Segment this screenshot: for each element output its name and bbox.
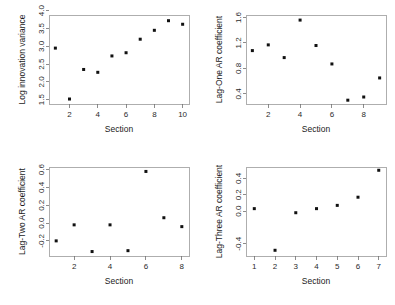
- x-tick-label: 7: [377, 262, 382, 271]
- plot-area-border: [246, 167, 386, 256]
- plot-area-border: [246, 15, 386, 104]
- y-tick-label: 0.4: [37, 181, 46, 193]
- data-point: [54, 47, 57, 50]
- data-point: [82, 68, 85, 71]
- data-point: [167, 19, 170, 22]
- x-tick-label: 8: [362, 110, 367, 119]
- data-point: [55, 239, 58, 242]
- y-axis-title: Lag-Three AR coefficient: [214, 164, 224, 258]
- panel-plot-1: 24680.40.81.21.6SectionLag-One AR coeffi…: [197, 0, 394, 152]
- panel-lag-three-ar-coefficient: 1234567-0.40.00.20.4SectionLag-Three AR …: [197, 152, 394, 304]
- x-tick-label: 2: [266, 110, 271, 119]
- y-tick-label: 4.0: [37, 5, 46, 17]
- x-tick-label: 5: [335, 262, 340, 271]
- data-point: [180, 225, 183, 228]
- x-axis-title: Section: [302, 124, 331, 134]
- data-point: [144, 170, 147, 173]
- y-tick-label: -0.2: [37, 233, 46, 247]
- y-tick-label: 0.4: [234, 88, 243, 100]
- data-point: [274, 249, 277, 252]
- y-tick-label: 0.8: [234, 62, 243, 74]
- x-tick-label: 8: [152, 110, 157, 119]
- x-tick-label: 4: [298, 110, 303, 119]
- data-point: [181, 23, 184, 26]
- data-point: [68, 98, 71, 101]
- y-tick-label: 1.2: [234, 37, 243, 49]
- data-point: [294, 211, 297, 214]
- panel-log-innovation-variance: 2468101.52.02.53.03.54.0SectionLog innov…: [0, 0, 197, 152]
- data-point: [378, 76, 381, 79]
- x-axis-title: Section: [105, 124, 134, 134]
- x-tick-label: 4: [96, 110, 101, 119]
- x-tick-label: 6: [330, 110, 335, 119]
- data-point: [315, 207, 318, 210]
- data-point: [73, 223, 76, 226]
- data-point: [377, 169, 380, 172]
- data-point: [346, 99, 349, 102]
- data-point: [267, 43, 270, 46]
- y-tick-label: 2.5: [37, 58, 46, 70]
- x-tick-label: 3: [294, 262, 299, 271]
- data-point: [139, 38, 142, 41]
- x-tick-label: 8: [180, 262, 185, 271]
- data-point: [362, 96, 365, 99]
- y-tick-label: -0.4: [234, 236, 243, 250]
- x-tick-label: 2: [273, 262, 278, 271]
- panel-lag-two-ar-coefficient: 2468-0.20.00.20.40.6SectionLag-Two AR co…: [0, 152, 197, 304]
- x-axis-title: Section: [302, 276, 331, 286]
- y-tick-label: 0.2: [234, 189, 243, 201]
- y-axis-title: Log innovation variance: [17, 14, 27, 104]
- data-point: [125, 51, 128, 54]
- x-tick-label: 2: [67, 110, 72, 119]
- data-point: [357, 196, 360, 199]
- x-tick-label: 2: [72, 262, 77, 271]
- data-point: [96, 71, 99, 74]
- data-point: [251, 49, 254, 52]
- data-point: [91, 250, 94, 253]
- y-tick-label: 3.0: [37, 40, 46, 52]
- x-tick-label: 4: [108, 262, 113, 271]
- data-point: [162, 216, 165, 219]
- data-point: [330, 62, 333, 65]
- y-tick-label: 0.0: [234, 205, 243, 217]
- plot-area-border: [49, 15, 189, 104]
- data-point: [110, 54, 113, 57]
- x-tick-label: 6: [144, 262, 149, 271]
- data-point: [336, 204, 339, 207]
- panel-plot-0: 2468101.52.02.53.03.54.0SectionLog innov…: [0, 0, 197, 152]
- x-tick-label: 10: [178, 110, 187, 119]
- x-tick-label: 4: [314, 262, 319, 271]
- y-tick-label: 0.2: [37, 199, 46, 211]
- data-point: [253, 207, 256, 210]
- panel-plot-3: 1234567-0.40.00.20.4SectionLag-Three AR …: [197, 152, 394, 304]
- data-point: [299, 19, 302, 22]
- plot-area-border: [49, 167, 189, 256]
- panel-lag-one-ar-coefficient: 24680.40.81.21.6SectionLag-One AR coeffi…: [197, 0, 394, 152]
- x-tick-label: 1: [252, 262, 257, 271]
- x-tick-label: 6: [356, 262, 361, 271]
- y-axis-title: Lag-One AR coefficient: [214, 15, 224, 103]
- y-tick-label: 0.4: [234, 172, 243, 184]
- y-tick-label: 1.6: [234, 11, 243, 23]
- x-axis-title: Section: [105, 276, 134, 286]
- data-point: [109, 223, 112, 226]
- data-point: [126, 249, 129, 252]
- data-point: [315, 44, 318, 47]
- y-tick-label: 1.5: [37, 94, 46, 106]
- y-axis-title: Lag-Two AR coefficient: [17, 167, 27, 254]
- y-tick-label: 2.0: [37, 76, 46, 88]
- x-tick-label: 6: [124, 110, 129, 119]
- panel-plot-2: 2468-0.20.00.20.40.6SectionLag-Two AR co…: [0, 152, 197, 304]
- y-tick-label: 0.6: [37, 164, 46, 176]
- scatter-panel-figure: 2468101.52.02.53.03.54.0SectionLog innov…: [0, 0, 395, 305]
- data-point: [283, 56, 286, 59]
- y-tick-label: 3.5: [37, 22, 46, 34]
- y-tick-label: 0.0: [37, 217, 46, 229]
- data-point: [153, 29, 156, 32]
